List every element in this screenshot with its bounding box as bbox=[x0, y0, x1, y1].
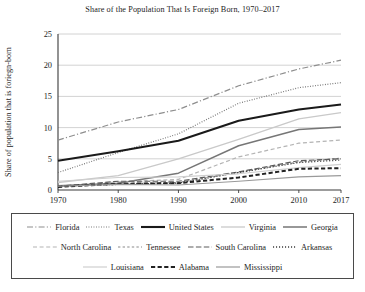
y-tick-label: 20 bbox=[44, 61, 52, 70]
y-tick-label: 25 bbox=[44, 30, 52, 39]
legend-item-south-carolina[interactable]: South Carolina bbox=[188, 243, 266, 252]
legend-item-tennessee[interactable]: Tennessee bbox=[118, 243, 180, 252]
legend-item-virginia[interactable]: Virginia bbox=[221, 223, 276, 232]
line-chart-svg: 0510152025197019801990200020102017Share … bbox=[0, 24, 365, 204]
legend-label: Texas bbox=[114, 223, 133, 232]
x-tick-label: 2017 bbox=[333, 196, 350, 205]
legend-swatch-icon bbox=[283, 223, 307, 231]
legend-row-2: North CarolinaTennesseeSouth CarolinaArk… bbox=[12, 237, 353, 257]
legend-swatch-icon bbox=[273, 243, 297, 251]
legend-swatch-icon bbox=[221, 223, 245, 231]
series-line-florida bbox=[58, 60, 341, 140]
legend-swatch-icon bbox=[141, 223, 165, 231]
y-axis-label: Share of population that is foriegn-born bbox=[4, 47, 13, 177]
chart-legend: FloridaTexasUnited StatesVirginiaGeorgia… bbox=[11, 213, 354, 279]
y-tick-label: 15 bbox=[44, 92, 52, 101]
y-tick-label: 10 bbox=[44, 124, 52, 133]
x-tick-label: 2010 bbox=[290, 196, 307, 205]
legend-swatch-icon bbox=[33, 243, 57, 251]
chart-title: Share of the Population That Is Foreign … bbox=[0, 5, 365, 14]
legend-label: Georgia bbox=[311, 223, 338, 232]
x-tick-label: 1990 bbox=[170, 196, 187, 205]
legend-label: Florida bbox=[55, 223, 79, 232]
legend-label: Tennessee bbox=[146, 243, 180, 252]
y-tick-label: 5 bbox=[48, 155, 52, 164]
legend-item-florida[interactable]: Florida bbox=[27, 223, 79, 232]
legend-swatch-icon bbox=[83, 263, 107, 271]
legend-label: Alabama bbox=[179, 263, 209, 272]
legend-row-3: LouisianaAlabamaMississippi bbox=[12, 257, 353, 277]
legend-item-arkansas[interactable]: Arkansas bbox=[273, 243, 332, 252]
legend-label: Arkansas bbox=[301, 243, 332, 252]
legend-label: Mississippi bbox=[244, 263, 282, 272]
legend-item-united-states[interactable]: United States bbox=[141, 223, 214, 232]
legend-item-georgia[interactable]: Georgia bbox=[283, 223, 338, 232]
legend-swatch-icon bbox=[27, 223, 51, 231]
legend-swatch-icon bbox=[151, 263, 175, 271]
legend-row-1: FloridaTexasUnited StatesVirginiaGeorgia bbox=[12, 217, 353, 237]
legend-label: Virginia bbox=[249, 223, 276, 232]
x-tick-label: 2000 bbox=[230, 196, 247, 205]
legend-label: South Carolina bbox=[216, 243, 266, 252]
legend-item-texas[interactable]: Texas bbox=[86, 223, 133, 232]
legend-item-alabama[interactable]: Alabama bbox=[151, 263, 209, 272]
legend-item-north-carolina[interactable]: North Carolina bbox=[33, 243, 111, 252]
series-line-louisiana bbox=[58, 164, 341, 181]
legend-label: North Carolina bbox=[61, 243, 111, 252]
legend-item-mississippi[interactable]: Mississippi bbox=[216, 263, 282, 272]
plot-area: 0510152025197019801990200020102017Share … bbox=[0, 24, 365, 204]
x-tick-label: 1970 bbox=[50, 196, 67, 205]
legend-swatch-icon bbox=[118, 243, 142, 251]
legend-item-louisiana[interactable]: Louisiana bbox=[83, 263, 144, 272]
x-tick-label: 1980 bbox=[110, 196, 127, 205]
legend-swatch-icon bbox=[86, 223, 110, 231]
legend-swatch-icon bbox=[188, 243, 212, 251]
y-tick-label: 0 bbox=[48, 186, 52, 195]
chart-figure: Share of the Population That Is Foreign … bbox=[0, 0, 365, 292]
legend-label: Louisiana bbox=[111, 263, 144, 272]
legend-label: United States bbox=[169, 223, 214, 232]
legend-swatch-icon bbox=[216, 263, 240, 271]
